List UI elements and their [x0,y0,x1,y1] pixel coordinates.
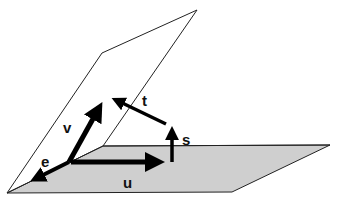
label-v: v [63,119,72,136]
label-t: t [142,92,147,109]
label-e: e [41,153,49,170]
vector-diagram: e v u s t [0,0,338,200]
label-u: u [123,174,132,191]
vector-t [116,100,166,124]
label-s: s [182,131,190,148]
